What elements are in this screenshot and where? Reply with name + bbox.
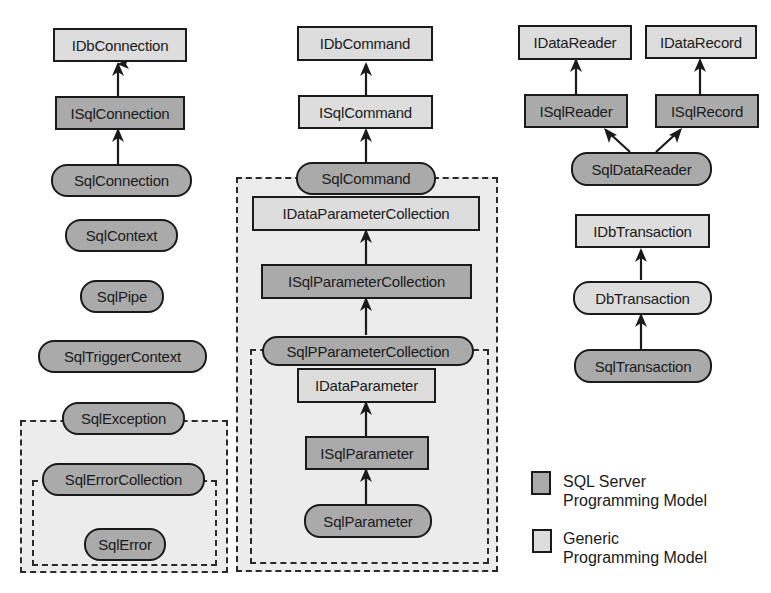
node-sqltransaction: SqlTransaction: [574, 349, 712, 383]
node-sqlconnection: SqlConnection: [51, 164, 192, 197]
legend-swatch-sql-server: [531, 471, 551, 495]
node-idatarecord: IDataRecord: [645, 25, 757, 59]
node-isqlreader: ISqlReader: [524, 94, 628, 128]
node-sqlcontext: SqlContext: [65, 219, 178, 252]
node-idbcommand: IDbCommand: [297, 26, 433, 61]
node-sqlcommand: SqlCommand: [296, 162, 436, 195]
node-idatareader: IDataReader: [518, 25, 632, 60]
node-idataparameter: IDataParameter: [297, 368, 436, 403]
node-sqlerror: SqlError: [84, 528, 166, 561]
node-isqlcommand: ISqlCommand: [298, 95, 433, 129]
node-isqlparametercollection: ISqlParameterCollection: [261, 264, 472, 299]
node-isqlparameter: ISqlParameter: [305, 436, 429, 470]
legend-label-generic: Generic Programming Model: [563, 529, 707, 567]
node-idbtransaction: IDbTransaction: [575, 214, 710, 248]
node-isqlrecord: ISqlRecord: [655, 94, 759, 128]
node-idataparametercollection: IDataParameterCollection: [252, 196, 480, 231]
node-sqltriggercontext: SqlTriggerContext: [38, 340, 207, 373]
node-idbconnection: IDbConnection: [53, 28, 187, 62]
node-sqlpparametercollection: SqlPParameterCollection: [262, 336, 474, 366]
node-sqlparameter: SqlParameter: [304, 504, 432, 538]
node-dbtransaction: DbTransaction: [573, 281, 712, 315]
node-sqlpipe: SqlPipe: [80, 280, 164, 313]
node-sqlerrorcollection: SqlErrorCollection: [42, 463, 205, 496]
legend-label-sql-server: SQL Server Programming Model: [563, 472, 707, 510]
node-sqldatareader: SqlDataReader: [571, 152, 712, 186]
legend-swatch-generic: [532, 529, 552, 553]
node-sqlexception: SqlException: [62, 402, 185, 435]
node-isqlconnection: ISqlConnection: [55, 96, 185, 130]
